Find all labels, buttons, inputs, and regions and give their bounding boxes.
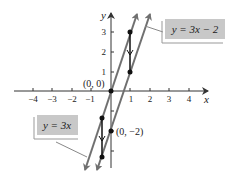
point-0-neg2	[109, 129, 114, 134]
y-tick-label: 2	[102, 47, 107, 57]
graph: −4 −3 −2 −1 1 2 3 4 1 2 3 x y (0, 0) (0,…	[0, 0, 236, 179]
equation-callout-lower: y = 3x	[34, 115, 87, 157]
point-origin	[109, 89, 114, 94]
x-tick-label: −4	[28, 94, 38, 104]
x-tick-label: −3	[47, 94, 57, 104]
point-lower-a	[100, 116, 105, 121]
intercept-label: (0, −2)	[116, 126, 143, 138]
equation-label: y = 3x	[42, 119, 71, 131]
y-axis-label: y	[100, 9, 106, 21]
point-1-3	[128, 30, 133, 35]
x-tick-label: 2	[148, 94, 153, 104]
x-tick-label: −1	[85, 94, 95, 104]
point-lower-b	[100, 155, 105, 160]
x-tick-label: −2	[67, 94, 77, 104]
x-axis-label: x	[203, 93, 209, 105]
y-tick-label: 1	[102, 67, 107, 77]
equation-callout-upper: y = 3x − 2	[145, 19, 225, 43]
origin-label: (0, 0)	[83, 78, 105, 90]
x-tick-label: 3	[167, 94, 172, 104]
x-tick-label: 1	[129, 94, 134, 104]
point-1-1	[128, 70, 133, 75]
equation-label: y = 3x − 2	[171, 23, 219, 35]
x-tick-label: 4	[187, 94, 192, 104]
y-tick-label: 3	[102, 27, 107, 37]
